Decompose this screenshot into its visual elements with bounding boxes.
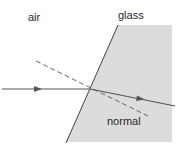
normal-label: normal <box>107 115 141 127</box>
glass-label: glass <box>118 9 144 21</box>
refraction-diagram: air glass normal <box>0 0 178 150</box>
incident-arrow-icon <box>34 86 42 92</box>
air-label: air <box>28 11 41 23</box>
